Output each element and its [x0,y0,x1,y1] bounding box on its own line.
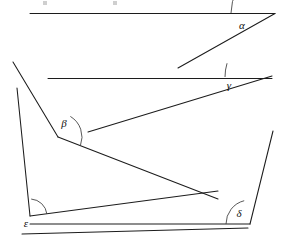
gamma-ray [88,76,272,132]
angles-diagram-svg: αγβεδ [0,0,286,247]
crop-mark-left [43,1,47,5]
beta-lower-ray [58,137,218,199]
crop-mark-right [113,1,117,5]
angle-arc-alpha [231,0,237,13]
angle-arcs-group [31,0,244,224]
angle-arc-gamma [225,63,227,77]
epsilon-upper-ray [30,191,218,216]
left-side-line [17,88,30,216]
crop-marks-group [43,1,117,5]
angle-label-epsilon: ε [24,217,29,229]
angle-arc-beta [70,116,82,145]
right-side-diagonal [250,131,273,224]
angle-label-delta: δ [236,207,242,219]
angle-label-alpha: α [239,19,245,31]
angle-label-beta: β [60,117,67,129]
upper-left-diagonal [13,62,58,137]
figure-segments-group [13,14,275,235]
angle-arc-epsilon [31,199,47,214]
geometry-figure-canvas: αγβεδ [0,0,286,247]
lower-outer-line [22,228,248,234]
angle-label-gamma: γ [227,79,232,91]
alpha-ray [178,14,275,69]
